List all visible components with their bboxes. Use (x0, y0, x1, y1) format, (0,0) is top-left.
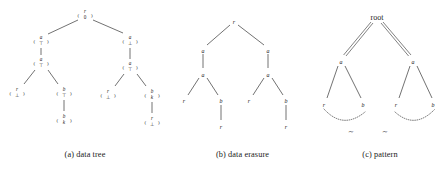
paren-right: ) (70, 91, 72, 96)
edge-r-to-a-right (238, 25, 264, 45)
panel-data-erasure: r a a r b r a a r b r (b) data erasure (170, 0, 315, 178)
edge-root-to-a-right-outer (383, 22, 411, 55)
paren-right: ) (136, 65, 138, 70)
node-root-r0: ( ) r 0 (78, 8, 94, 20)
paren-left: ( (123, 65, 125, 70)
paren-right: ) (70, 118, 72, 123)
node-a-right-1: a (267, 48, 270, 54)
node-b-right: b (432, 102, 435, 108)
edge-a2-to-r1 (24, 70, 35, 84)
edge-a7-to-r2 (115, 74, 124, 86)
paren-left: ( (10, 91, 12, 96)
paren-right: ) (47, 39, 49, 44)
node-a-left-2: a (202, 72, 205, 78)
paren-right: ) (23, 91, 25, 96)
node-b-top-1: ( ) b ⊤ (57, 86, 73, 98)
node-label-bottom: ⊥ (106, 94, 110, 100)
edge-a-right-to-r (399, 66, 410, 98)
tree-edges (24, 20, 152, 113)
paren-left: ( (78, 13, 80, 18)
panel-caption-a: (a) data tree (0, 150, 170, 159)
node-label-top: a (40, 56, 43, 62)
edge-a-to-r-left (188, 78, 199, 95)
node-root-label: root (371, 13, 385, 22)
node-a-bot-1: ( ) a ⊥ (123, 34, 139, 46)
node-a-left: a (340, 59, 343, 65)
node-b-left: b (220, 98, 223, 104)
edge-a2-to-b1 (48, 70, 58, 84)
edge-root-to-a1 (48, 20, 78, 34)
similarity-label-right: ∼ (382, 128, 388, 135)
edge-a-left-to-r (327, 66, 338, 98)
node-r-left-child: r (220, 124, 223, 130)
node-r-right: r (395, 102, 398, 108)
paren-left: ( (57, 118, 59, 123)
node-label-bottom: ⊤ (39, 62, 43, 68)
node-label-top: a (129, 34, 132, 40)
panel-caption-c: (c) pattern (315, 150, 445, 159)
node-label-top: a (129, 60, 132, 66)
node-b-k-1: ( ) b k (57, 113, 73, 125)
edge-a-to-r-right (253, 78, 264, 95)
edge-root-to-a-left-outer (344, 22, 371, 55)
node-label-bottom: ⊤ (39, 40, 43, 46)
paren-right: ) (158, 93, 160, 98)
node-label-top: b (63, 86, 66, 92)
node-label-bottom: ⊤ (128, 66, 132, 72)
paren-left: ( (101, 93, 103, 98)
similarity-arc-right (395, 109, 435, 120)
node-label-top: r (84, 8, 87, 14)
edge-a-to-b-left (207, 78, 218, 95)
node-a-top-3: ( ) a ⊤ (123, 60, 139, 72)
edge-root-to-a-right-inner (381, 23, 409, 56)
node-label-top: a (40, 34, 43, 40)
node-r-bot-1: ( ) r ⊥ (10, 86, 26, 98)
node-b-right: b (285, 98, 288, 104)
paren-left: ( (34, 39, 36, 44)
edge-root-to-a6 (93, 20, 123, 33)
node-label-bottom: ⊥ (15, 92, 19, 98)
node-r-left: r (323, 102, 326, 108)
data-tree-svg: ( ) r 0 ( ) a ⊤ ( ) a ⊤ ( ) r ⊥ (0, 0, 170, 148)
paren-left: ( (145, 93, 147, 98)
paren-right: ) (47, 61, 49, 66)
node-r-right-child: r (285, 124, 288, 130)
node-label-bottom: k (63, 119, 66, 125)
node-a-right-2: a (267, 72, 270, 78)
data-erasure-svg: r a a r b r a a r b r (170, 0, 315, 148)
node-a-right: a (412, 59, 415, 65)
node-label-bottom: k (151, 94, 154, 100)
paren-left: ( (57, 91, 59, 96)
paren-right: ) (114, 93, 116, 98)
paren-left: ( (123, 39, 125, 44)
pattern-svg: root a r b a r b ∼ ∼ (315, 0, 445, 148)
similarity-label-left: ∼ (348, 128, 354, 135)
node-label-top: b (63, 113, 66, 119)
edge-a-to-b-right (272, 78, 283, 95)
edge-r-to-a-left (207, 25, 230, 45)
node-root-r: r (233, 19, 236, 25)
node-a-top-2: ( ) a ⊤ (34, 56, 50, 68)
node-label-bottom: ⊥ (128, 40, 132, 46)
similarity-arcs (324, 109, 435, 120)
node-b-k-2: ( ) b k (145, 88, 161, 100)
figure-container: ( ) r 0 ( ) a ⊤ ( ) a ⊤ ( ) r ⊥ (0, 0, 445, 178)
node-label-top: b (151, 88, 154, 94)
paren-left: ( (145, 120, 147, 125)
edge-a-left-to-b (345, 66, 361, 98)
panel-data-tree: ( ) r 0 ( ) a ⊤ ( ) a ⊤ ( ) r ⊥ (0, 0, 170, 178)
single-edges (327, 66, 432, 98)
edge-a7-to-b2 (137, 74, 146, 86)
node-a-left-1: a (202, 48, 205, 54)
node-label-top: r (16, 86, 19, 92)
paren-right: ) (136, 39, 138, 44)
node-label-bottom: ⊤ (62, 92, 66, 98)
node-a-top-1: ( ) a ⊤ (34, 34, 50, 46)
node-r-left-leaf: r (183, 98, 186, 104)
paren-right: ) (158, 120, 160, 125)
similarity-arc-left (324, 109, 365, 120)
node-label-bottom: 0 (84, 14, 87, 20)
panel-caption-b: (b) data erasure (170, 150, 315, 159)
panel-pattern: root a r b a r b ∼ ∼ (c) pattern (315, 0, 445, 178)
edge-root-to-a-left-inner (346, 23, 373, 56)
